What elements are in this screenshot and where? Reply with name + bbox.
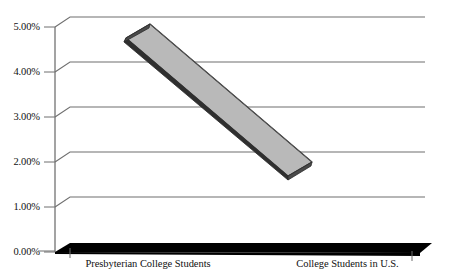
data-ribbon-series-percentage <box>124 24 312 180</box>
x-category-label-college-students-in-us: College Students in U.S. <box>285 258 410 269</box>
plot-area <box>0 0 451 277</box>
x-category-label-presbyterian-college-students: Presbyterian College Students <box>78 258 218 269</box>
chart-container: 5.00% 4.00% 3.00% 2.00% 1.00% 0.00% <box>0 0 451 277</box>
y-tick-marks <box>44 27 55 252</box>
floor-slab <box>55 243 432 256</box>
